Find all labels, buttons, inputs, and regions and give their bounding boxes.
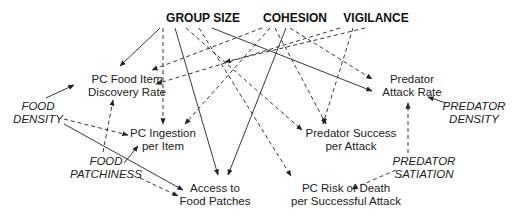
edge-cohesion-to-access-food-patches bbox=[228, 28, 286, 175]
edge-group-size-to-access-food-patches bbox=[175, 28, 218, 175]
node-label-line: Discovery Rate bbox=[88, 86, 166, 98]
node-predator-attack-rate: PredatorAttack Rate bbox=[382, 73, 441, 98]
node-label-line: Predator bbox=[390, 73, 434, 85]
edge-cohesion-to-predator-attack-rate bbox=[290, 28, 372, 79]
node-label-line: Predator Success bbox=[306, 127, 397, 139]
node-predator-success: Predator Successper Attack bbox=[306, 127, 397, 152]
node-label-line: PC Ingestion bbox=[130, 127, 196, 139]
node-label-line: Food Patches bbox=[180, 195, 251, 207]
edge-food-patchiness-to-access-food-patches bbox=[140, 178, 178, 196]
node-label-line: Attack Rate bbox=[382, 86, 441, 98]
edge-group-size-to-predator-success bbox=[186, 28, 302, 130]
causal-diagram: GROUP SIZECOHESIONVIGILANCEPC Food ItemD… bbox=[0, 0, 521, 219]
node-label-line: DENSITY bbox=[13, 113, 64, 125]
node-food-patchiness: FOODPATCHINESS bbox=[70, 155, 142, 180]
edge-food-patchiness-to-pc-ingestion bbox=[124, 146, 138, 163]
node-label-line: per Item bbox=[142, 140, 184, 152]
node-label-line: FOOD bbox=[21, 100, 54, 112]
diagram-canvas: GROUP SIZECOHESIONVIGILANCEPC Food ItemD… bbox=[0, 0, 521, 219]
edge-cohesion-to-pc-ingestion bbox=[185, 28, 270, 124]
node-predator-density: PREDATORDENSITY bbox=[443, 100, 506, 125]
edge-food-patchiness-to-pc-food-discovery bbox=[103, 100, 113, 152]
edge-food-density-to-pc-ingestion bbox=[64, 119, 128, 135]
edge-cohesion-to-pc-food-discovery bbox=[152, 28, 262, 70]
node-pc-food-discovery: PC Food ItemDiscovery Rate bbox=[88, 73, 166, 98]
node-label-line: PREDATOR bbox=[443, 100, 506, 112]
node-label-line: per Attack bbox=[325, 140, 376, 152]
node-label-line: SATIATION bbox=[395, 168, 455, 180]
node-cohesion: COHESION bbox=[263, 11, 327, 25]
node-label-line: PC Food Item bbox=[92, 73, 163, 85]
node-label-line: VIGILANCE bbox=[343, 11, 408, 25]
node-label-line: FOOD bbox=[89, 155, 122, 167]
edge-cohesion-to-predator-success bbox=[275, 28, 326, 124]
node-label-line: PATCHINESS bbox=[70, 168, 142, 180]
node-label-line: Access to bbox=[190, 182, 240, 194]
edge-food-density-to-pc-food-discovery bbox=[46, 85, 74, 98]
edge-group-size-to-pc-food-discovery bbox=[120, 28, 160, 66]
node-vigilance: VIGILANCE bbox=[343, 11, 408, 25]
node-label-line: PC Risk of Death bbox=[302, 182, 390, 194]
node-label-line: GROUP SIZE bbox=[166, 11, 240, 25]
node-food-density: FOODDENSITY bbox=[13, 100, 64, 125]
node-pc-ingestion: PC Ingestionper Item bbox=[130, 127, 196, 152]
node-label-line: per Successful Attack bbox=[291, 195, 401, 207]
node-pc-risk-death: PC Risk of Deathper Successful Attack bbox=[291, 182, 401, 207]
node-label-line: DENSITY bbox=[449, 113, 500, 125]
node-group-size: GROUP SIZE bbox=[166, 11, 240, 25]
edge-vigilance-to-predator-success bbox=[323, 28, 353, 124]
node-label-line: COHESION bbox=[263, 11, 327, 25]
node-predator-satiation: PREDATORSATIATION bbox=[393, 155, 456, 180]
node-access-food-patches: Access toFood Patches bbox=[180, 182, 251, 207]
node-label-line: PREDATOR bbox=[393, 155, 456, 167]
